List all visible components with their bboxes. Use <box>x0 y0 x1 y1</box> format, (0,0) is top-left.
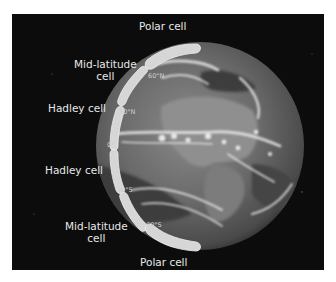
latitude-60s: 60°S <box>146 221 162 229</box>
label-line: Mid-latitude <box>74 58 137 70</box>
earth-globe <box>12 14 324 270</box>
label-mid-latitude-cell-north: Mid-latitude cell <box>74 58 137 82</box>
label-polar-cell-south: Polar cell <box>140 256 187 268</box>
latitude-30s: 30°S <box>117 186 133 194</box>
label-polar-cell-north: Polar cell <box>139 20 186 32</box>
label-line: cell <box>65 232 128 244</box>
label-hadley-cell-north: Hadley cell <box>48 102 106 114</box>
label-hadley-cell-south: Hadley cell <box>45 164 103 176</box>
latitude-equator: 0° <box>107 141 114 149</box>
label-line: Mid-latitude <box>65 220 128 232</box>
latitude-30n: 30°N <box>119 108 135 116</box>
diagram-panel: Polar cell Mid-latitude cell Hadley cell… <box>12 14 324 270</box>
latitude-60n: 60°N <box>148 72 164 80</box>
label-line: cell <box>74 70 137 82</box>
label-mid-latitude-cell-south: Mid-latitude cell <box>65 220 128 244</box>
